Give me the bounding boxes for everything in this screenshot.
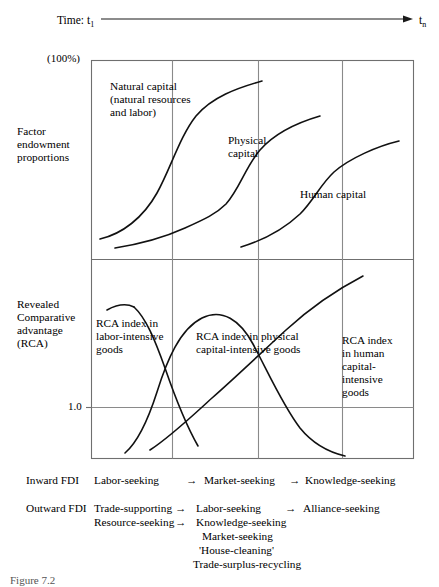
inward-fdi-stage-3: Knowledge-seeking xyxy=(305,474,395,487)
arrow-icon-outward-2: → xyxy=(285,502,296,515)
plot-frame xyxy=(86,61,414,459)
arrow-icon-outward-1: → xyxy=(175,502,186,515)
curve-rca-labor-intensive xyxy=(107,305,134,310)
top-axis-max-label: (100%) xyxy=(47,52,80,65)
arrow-icon-inward-1: → xyxy=(186,474,197,487)
figure-caption: Figure 7.2 xyxy=(10,574,55,587)
time-axis-label: Time: t1 xyxy=(57,14,94,29)
arrow-icon-inward-2: → xyxy=(289,474,300,487)
inward-fdi-stage-1: Labor-seeking xyxy=(94,474,159,487)
label-rca-labor-intensive: RCA index inlabor-intensivegoods xyxy=(96,317,164,356)
label-human-capital: Human capital xyxy=(300,188,366,201)
outward-fdi-extra-2: 'House-cleaning' xyxy=(199,544,274,557)
label-rca-human-intensive: RCA indexin humancapital-intensivegoods xyxy=(342,334,393,398)
outward-fdi-stage-1a: Trade-supporting xyxy=(94,502,172,515)
time-arrow-icon xyxy=(101,15,413,22)
arrow-icon-outward-3: → xyxy=(175,516,186,529)
outward-fdi-stage-2a: Labor-seeking xyxy=(196,502,261,515)
outward-fdi-extra-1: Market-seeking xyxy=(202,530,273,543)
inward-fdi-stage-2: Market-seeking xyxy=(204,474,275,487)
rca-reference-label: 1.0 xyxy=(68,400,82,413)
time-axis-end-label: tn xyxy=(419,14,426,29)
outward-fdi-stage-2b: Knowledge-seeking xyxy=(196,516,286,529)
outward-fdi-row-label: Outward FDI xyxy=(26,502,87,515)
outward-fdi-stage-1b: Resource-seeking xyxy=(94,516,174,529)
curve-physical-capital xyxy=(115,116,320,248)
inward-fdi-row-label: Inward FDI xyxy=(26,474,79,487)
label-natural-capital: Natural capital(natural resourcesand lab… xyxy=(110,80,191,119)
label-rca-physical-intensive: RCA index in physicalcapital-intensive g… xyxy=(196,330,300,356)
bottom-panel-y-title: RevealedComparativeadvantage(RCA) xyxy=(17,298,75,350)
curve-rca-human-intensive xyxy=(150,276,363,450)
top-panel-y-title: Factorendowmentproportions xyxy=(17,125,70,164)
outward-fdi-stage-3a: Alliance-seeking xyxy=(303,502,380,515)
outward-fdi-extra-3: Trade-surplus-recycling xyxy=(193,558,301,571)
label-physical-capital: Physicalcapital xyxy=(228,134,266,160)
